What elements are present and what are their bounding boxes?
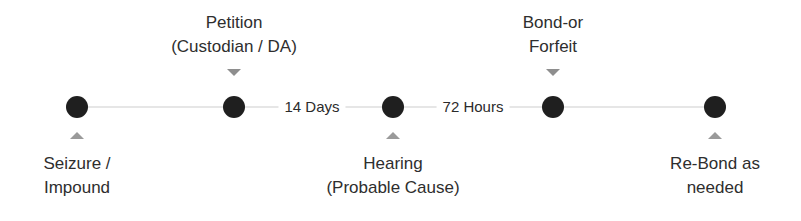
label-hearing: Hearing (Probable Cause) <box>293 152 493 200</box>
marker-up-icon <box>708 132 722 139</box>
label-seizure: Seizure / Impound <box>0 152 177 200</box>
label-line: Bond-or <box>453 11 653 35</box>
label-line: Forfeit <box>453 35 653 59</box>
label-line: Petition <box>134 11 334 35</box>
label-line: needed <box>615 176 801 200</box>
marker-down-icon <box>227 69 241 76</box>
node-seizure <box>66 96 88 118</box>
label-line: Hearing <box>293 152 493 176</box>
label-bond-or-forfeit: Bond-or Forfeit <box>453 11 653 59</box>
node-rebond <box>704 96 726 118</box>
marker-up-icon <box>70 132 84 139</box>
interval-label: 14 Days <box>278 97 345 117</box>
label-line: Seizure / <box>0 152 177 176</box>
label-line: (Custodian / DA) <box>134 35 334 59</box>
interval-label: 72 Hours <box>437 97 510 117</box>
node-hearing <box>382 96 404 118</box>
node-bond-or-forfeit <box>542 96 564 118</box>
node-petition <box>223 96 245 118</box>
label-line: Re-Bond as <box>615 152 801 176</box>
label-line: (Probable Cause) <box>293 176 493 200</box>
marker-down-icon <box>546 69 560 76</box>
label-petition: Petition (Custodian / DA) <box>134 11 334 59</box>
label-line: Impound <box>0 176 177 200</box>
label-rebond: Re-Bond as needed <box>615 152 801 200</box>
marker-up-icon <box>386 132 400 139</box>
